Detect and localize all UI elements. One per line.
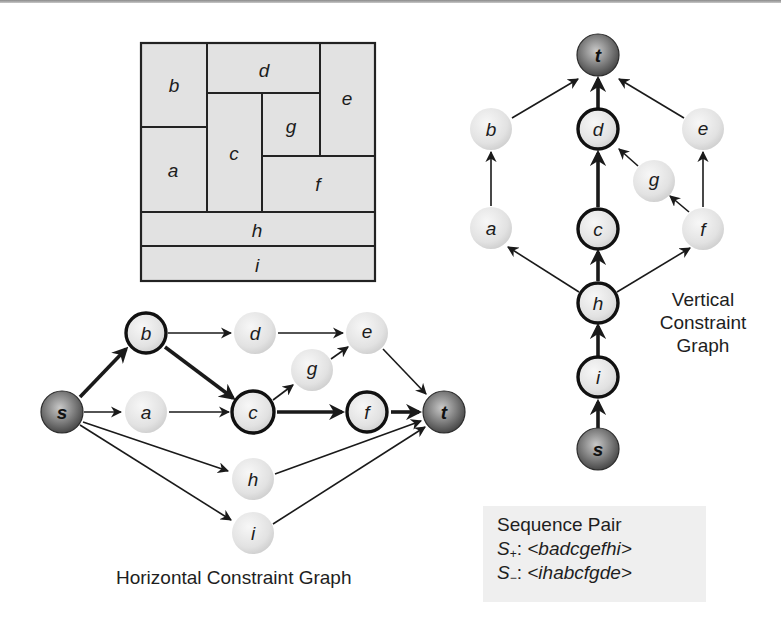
svg-text:s: s bbox=[57, 402, 68, 423]
vcg-edge-b-t bbox=[512, 79, 578, 118]
svg-text:t: t bbox=[441, 402, 448, 423]
svg-text:e: e bbox=[362, 321, 373, 342]
svg-text:e: e bbox=[698, 118, 709, 139]
hcg-edge-i-t bbox=[273, 427, 425, 524]
svg-text:g: g bbox=[307, 358, 318, 379]
vertical-constraint-graph: t b d e g a c f bbox=[470, 34, 724, 470]
horizontal-constraint-graph: s b a d e g c f bbox=[41, 312, 465, 554]
hcg-node-h: h bbox=[232, 458, 274, 500]
hcg-node-b: b bbox=[126, 313, 166, 353]
svg-text:a: a bbox=[486, 218, 497, 239]
hcg-edge-c-g bbox=[273, 385, 293, 400]
svg-text:s: s bbox=[593, 439, 604, 460]
hcg-node-a: a bbox=[125, 391, 167, 433]
svg-text:d: d bbox=[250, 323, 262, 344]
vcg-caption-line-2: Constraint bbox=[648, 311, 758, 334]
vcg-node-f: f bbox=[682, 208, 724, 250]
hcg-node-d: d bbox=[234, 312, 276, 354]
s-minus-separator: : bbox=[517, 562, 528, 583]
block-label-h: h bbox=[252, 220, 263, 241]
sequence-s-minus: S−: <ihabcfgde> bbox=[497, 562, 632, 585]
vcg-caption-line-1: Vertical bbox=[648, 288, 758, 311]
hcg-caption: Horizontal Constraint Graph bbox=[116, 566, 352, 589]
svg-text:b: b bbox=[486, 119, 497, 140]
svg-text:h: h bbox=[248, 469, 259, 490]
vcg-node-c: c bbox=[578, 209, 618, 249]
hcg-edge-s-i bbox=[80, 425, 231, 520]
vcg-node-a: a bbox=[470, 207, 512, 249]
vcg-node-t: t bbox=[577, 34, 619, 76]
vcg-node-g: g bbox=[633, 160, 675, 202]
hcg-edge-h-t bbox=[275, 421, 421, 474]
s-minus-value: <ihabcfgde> bbox=[527, 562, 632, 583]
sequence-pair-title: Sequence Pair bbox=[497, 514, 622, 536]
hcg-edge-s-b bbox=[80, 349, 126, 397]
svg-text:c: c bbox=[593, 219, 603, 240]
block-label-c: c bbox=[229, 143, 239, 164]
vcg-node-b: b bbox=[470, 108, 512, 150]
vcg-node-i: i bbox=[578, 357, 618, 397]
svg-text:b: b bbox=[141, 323, 152, 344]
vcg-node-d: d bbox=[578, 109, 618, 149]
s-plus-separator: : bbox=[517, 538, 528, 559]
hcg-node-t: t bbox=[423, 391, 465, 433]
hcg-node-s: s bbox=[41, 391, 83, 433]
s-plus-symbol: S bbox=[497, 538, 510, 559]
block-label-g: g bbox=[286, 116, 297, 137]
vcg-caption-line-3: Graph bbox=[648, 334, 758, 357]
vcg-edge-g-d bbox=[619, 149, 638, 166]
svg-text:g: g bbox=[649, 169, 660, 190]
svg-text:d: d bbox=[593, 119, 605, 140]
hcg-node-g: g bbox=[291, 349, 333, 391]
vcg-edge-f-g bbox=[670, 196, 689, 212]
hcg-node-i: i bbox=[232, 512, 274, 554]
sequence-pair-box: Sequence Pair S+: <badcgefhi> S−: <ihabc… bbox=[483, 506, 706, 602]
vcg-node-e: e bbox=[682, 108, 724, 150]
block-label-e: e bbox=[342, 88, 353, 109]
s-minus-subscript: − bbox=[510, 571, 517, 585]
block-label-d: d bbox=[259, 60, 271, 81]
vcg-edge-h-a bbox=[508, 247, 579, 292]
floorplan: b d e a c g f h i bbox=[141, 43, 375, 281]
s-plus-value: <badcgefhi> bbox=[527, 538, 632, 559]
svg-text:c: c bbox=[248, 402, 258, 423]
hcg-node-e: e bbox=[346, 312, 388, 354]
sequence-s-plus: S+: <badcgefhi> bbox=[497, 538, 632, 561]
block-label-b: b bbox=[169, 75, 180, 96]
hcg-node-c: c bbox=[232, 391, 274, 433]
vcg-edge-h-f bbox=[617, 248, 690, 292]
vcg-edge-e-t bbox=[619, 79, 684, 118]
block-label-a: a bbox=[168, 160, 179, 181]
hcg-edge-b-c bbox=[165, 347, 233, 398]
hcg-node-f: f bbox=[347, 392, 387, 432]
vcg-node-h: h bbox=[578, 283, 618, 323]
svg-text:a: a bbox=[141, 402, 152, 423]
svg-text:t: t bbox=[595, 45, 602, 66]
vcg-caption: Vertical Constraint Graph bbox=[648, 288, 758, 357]
s-plus-subscript: + bbox=[510, 547, 517, 561]
hcg-edge-e-t bbox=[383, 349, 426, 394]
vcg-node-s: s bbox=[577, 428, 619, 470]
hcg-edge-g-e bbox=[331, 347, 348, 359]
svg-text:h: h bbox=[593, 293, 604, 314]
s-minus-symbol: S bbox=[497, 562, 510, 583]
